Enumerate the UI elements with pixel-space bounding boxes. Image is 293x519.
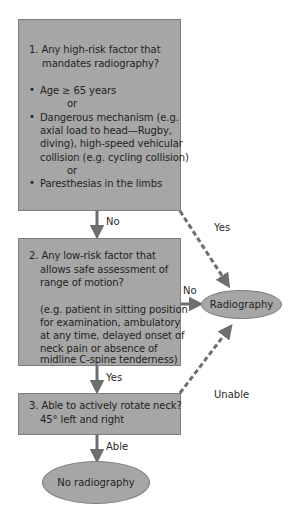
step1-connector-or: or bbox=[67, 164, 77, 177]
edge-label-step3-unable: Unable bbox=[214, 389, 249, 400]
step2-example-line3: at any time, delayed onset of bbox=[40, 329, 184, 342]
step2-example-line1: (e.g. patient in sitting position bbox=[40, 303, 188, 316]
step1-item-mechanism-line4: collision (e.g. cycling collision) bbox=[40, 151, 189, 164]
outcome-radiography: Radiography bbox=[201, 290, 282, 319]
step3-question-line1: 3. Able to actively rotate neck? bbox=[29, 399, 182, 412]
step3-box: 3. Able to actively rotate neck? 45° lef… bbox=[18, 393, 181, 435]
bullet-icon: • bbox=[29, 111, 35, 122]
bullet-icon: • bbox=[29, 84, 35, 95]
step2-question-line2: allows safe assessment of bbox=[40, 263, 168, 276]
step1-item-mechanism-line3: diving), high-speed vehicular bbox=[40, 137, 183, 150]
step2-question-line1: 2. Any low-risk factor that bbox=[29, 249, 156, 262]
step2-example-line5: midline C-spine tenderness) bbox=[40, 355, 178, 365]
step2-question-line3: range of motion? bbox=[40, 276, 124, 289]
step1-item-paresthesias: Paresthesias in the limbs bbox=[40, 177, 162, 190]
edge-label-step1-no: No bbox=[106, 216, 120, 227]
step1-connector-or: or bbox=[67, 97, 77, 110]
step3-question-line2: 45° left and right bbox=[40, 413, 124, 426]
edge-label-step2-yes: Yes bbox=[106, 372, 122, 383]
edge-label-step2-no: No bbox=[183, 285, 197, 296]
edge-label-step1-yes: Yes bbox=[214, 222, 230, 233]
step1-question-line1: 1. Any high-risk factor that bbox=[29, 43, 160, 56]
step1-item-mechanism-line2: axial load to head—Rugby, bbox=[40, 124, 172, 137]
step1-box: 1. Any high-risk factor that mandates ra… bbox=[18, 19, 181, 211]
outcome-no-radiography: No radiography bbox=[42, 461, 150, 504]
step2-example-line2: for examination, ambulatory bbox=[40, 316, 180, 329]
step1-item-mechanism-line1: Dangerous mechanism (e.g. bbox=[40, 111, 179, 124]
arrow-step3-to-radiography bbox=[180, 330, 228, 393]
bullet-icon: • bbox=[29, 177, 35, 188]
step1-item-age: Age ≥ 65 years bbox=[40, 84, 116, 97]
step2-box: 2. Any low-risk factor that allows safe … bbox=[18, 238, 181, 366]
step1-question-line2: mandates radiography? bbox=[42, 57, 159, 70]
edge-label-step3-able: Able bbox=[106, 441, 128, 452]
